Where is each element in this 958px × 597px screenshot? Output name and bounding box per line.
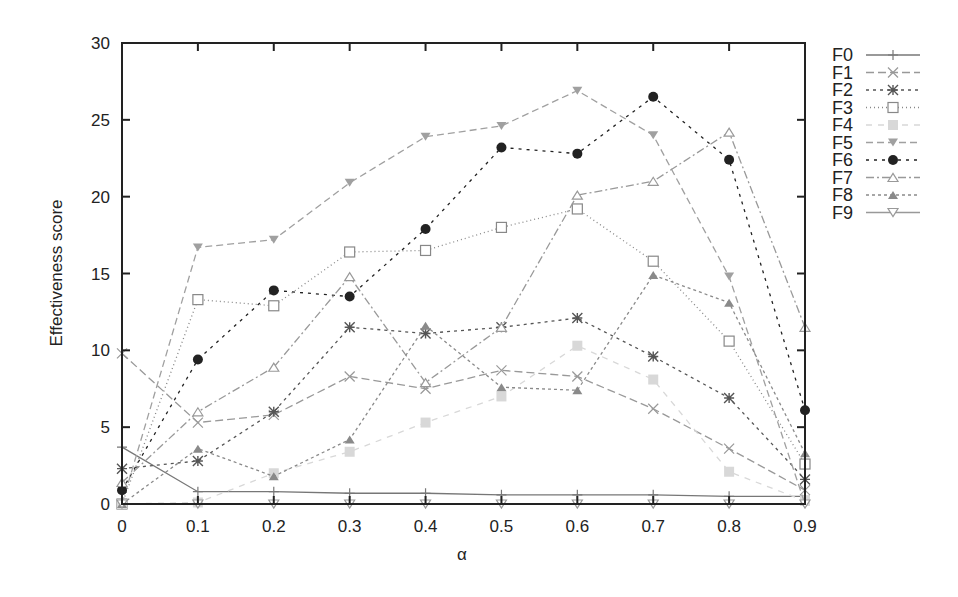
series-f4 [117, 341, 810, 509]
y-tick-label: 30 [91, 34, 110, 53]
series-f6 [117, 92, 810, 495]
data-point [345, 292, 355, 302]
data-point [193, 487, 203, 497]
data-point [572, 87, 582, 95]
series-f1 [117, 348, 810, 495]
data-point [345, 322, 355, 332]
x-tick-label: 0.1 [186, 517, 210, 536]
data-point [648, 256, 658, 266]
y-tick-label: 0 [101, 495, 110, 514]
x-tick-label: 0.3 [338, 517, 362, 536]
data-point [648, 351, 658, 361]
data-point [572, 204, 582, 214]
plot-frame [122, 43, 805, 504]
data-point [724, 393, 734, 403]
x-tick-label: 0.7 [641, 517, 665, 536]
x-tick-label: 0.5 [490, 517, 514, 536]
legend-marker-icon [888, 50, 898, 60]
y-axis-title: Effectiveness score [47, 199, 66, 346]
legend-marker-icon [888, 103, 898, 113]
series-f0 [117, 442, 810, 501]
data-point [269, 363, 279, 371]
data-point [421, 245, 431, 255]
data-point [648, 92, 658, 102]
line-chart: 051015202530 00.10.20.30.40.50.60.70.80.… [0, 0, 958, 597]
data-point [193, 418, 203, 428]
data-point [572, 371, 582, 381]
legend-marker-icon [888, 120, 898, 130]
data-point [724, 128, 734, 136]
data-point [193, 355, 203, 365]
data-point [421, 418, 431, 428]
series-f7 [117, 128, 810, 486]
data-point [648, 375, 658, 385]
y-tick-label: 10 [91, 341, 110, 360]
x-tick-label: 0 [117, 517, 126, 536]
data-point [269, 285, 279, 295]
data-point [724, 336, 734, 346]
data-point [648, 404, 658, 414]
data-point [496, 142, 506, 152]
data-point [193, 456, 203, 466]
series-f8 [117, 271, 810, 508]
data-point [269, 487, 279, 497]
x-tick-label: 0.8 [717, 517, 741, 536]
x-axis: 00.10.20.30.40.50.60.70.80.9 [117, 43, 817, 536]
data-point [648, 271, 658, 279]
data-point [572, 341, 582, 351]
data-point [421, 322, 431, 330]
data-point [193, 445, 203, 453]
data-point [496, 391, 506, 401]
data-point [345, 447, 355, 457]
legend-label: F9 [832, 203, 853, 223]
x-tick-label: 0.6 [566, 517, 590, 536]
data-point [193, 295, 203, 305]
data-point [648, 131, 658, 139]
legend: F0F1F2F3F4F5F6F7F8F9 [832, 45, 920, 223]
data-point [496, 222, 506, 232]
data-point [345, 247, 355, 257]
y-axis: 051015202530 [91, 34, 805, 514]
data-point [421, 224, 431, 234]
legend-marker-icon [888, 155, 898, 165]
x-tick-label: 0.4 [414, 517, 438, 536]
data-point [269, 301, 279, 311]
data-point [572, 313, 582, 323]
y-tick-label: 20 [91, 188, 110, 207]
data-point [724, 467, 734, 477]
x-tick-label: 0.9 [793, 517, 817, 536]
data-point [724, 299, 734, 307]
x-axis-title: α [457, 545, 467, 564]
legend-item-f9: F9 [832, 203, 920, 223]
x-tick-label: 0.2 [262, 517, 286, 536]
y-tick-label: 5 [101, 418, 110, 437]
legend-marker-icon [888, 85, 898, 95]
data-point [572, 149, 582, 159]
data-point [345, 273, 355, 281]
data-point [724, 155, 734, 165]
y-tick-label: 25 [91, 111, 110, 130]
y-tick-label: 15 [91, 265, 110, 284]
data-point [724, 273, 734, 281]
data-point [269, 236, 279, 244]
data-point [724, 444, 734, 454]
series-f5 [117, 87, 810, 508]
data-point [269, 407, 279, 417]
data-point [193, 243, 203, 251]
data-point [345, 435, 355, 443]
plot-series-group [117, 87, 810, 509]
